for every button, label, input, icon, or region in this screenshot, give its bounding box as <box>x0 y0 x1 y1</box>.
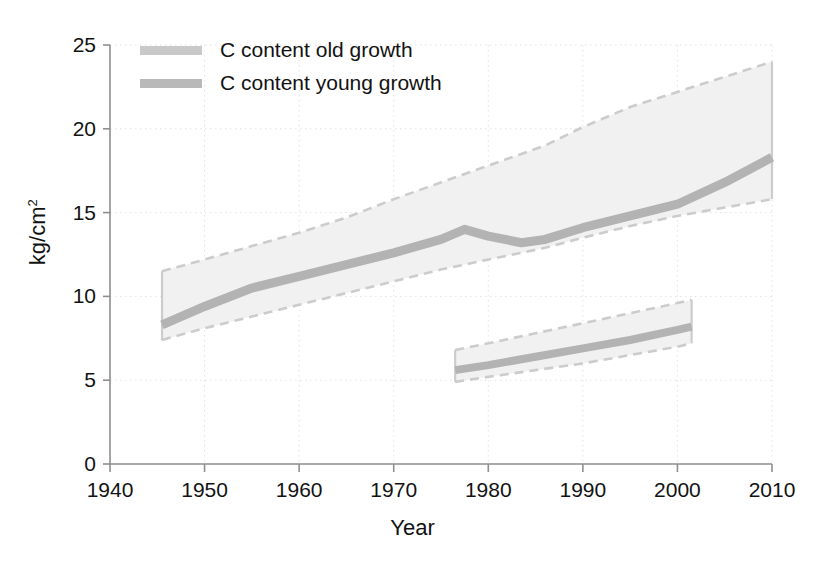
y-axis-label: kg/cm2 <box>25 200 51 266</box>
x-tick-label: 1940 <box>87 478 134 502</box>
chart-legend: C content old growth C content young gro… <box>140 38 442 95</box>
x-tick-label: 1960 <box>276 478 323 502</box>
y-axis-label-exponent: 2 <box>25 200 40 207</box>
legend-swatch-young-growth <box>140 79 202 88</box>
legend-label-old-growth: C content old growth <box>220 38 413 62</box>
legend-item-old-growth: C content old growth <box>140 38 442 62</box>
x-tick-label: 1990 <box>559 478 606 502</box>
x-axis-label: Year <box>0 515 825 541</box>
legend-swatch-old-growth <box>140 46 202 55</box>
legend-label-young-growth: C content young growth <box>220 71 442 95</box>
x-tick-label: 2010 <box>749 478 796 502</box>
confidence-bands <box>162 62 772 382</box>
legend-item-young-growth: C content young growth <box>140 71 442 95</box>
chart-figure: 0510152025 19401950196019701980199020002… <box>0 0 825 561</box>
x-tick-label: 1950 <box>181 478 228 502</box>
x-tick-label: 1980 <box>465 478 512 502</box>
x-tick-label: 1970 <box>370 478 417 502</box>
y-axis-label-wrap: kg/cm2 <box>0 0 138 465</box>
y-axis-label-base: kg/cm <box>25 207 50 266</box>
x-tick-label: 2000 <box>654 478 701 502</box>
